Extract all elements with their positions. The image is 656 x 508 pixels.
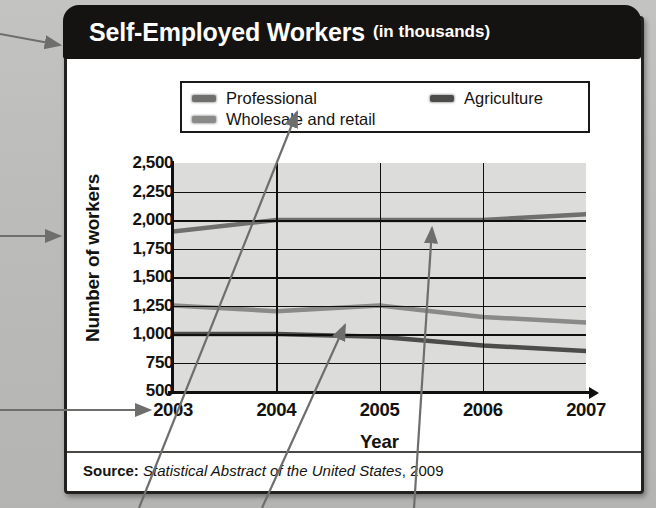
legend-column-right: Agriculture [430,88,543,109]
plot-area [173,163,586,391]
y-axis-line [171,161,174,394]
page-title: Self-Employed Workers [89,18,365,47]
source-work: Statistical Abstract of the United State… [143,462,402,479]
legend-item-wholesale: Wholesale and retail [192,109,376,130]
y-axis-label: Number of workers [82,158,104,358]
y-axis-tick: 1,500 [132,267,173,287]
legend-item-agriculture: Agriculture [430,88,543,109]
x-axis-tick: 2004 [256,399,296,421]
legend-label-professional: Professional [226,89,317,108]
x-axis-line [168,391,590,394]
vertical-gridline [276,163,278,391]
x-axis-label: Year [173,431,586,453]
vertical-gridline [483,163,485,391]
x-axis-tick: 2007 [566,399,606,421]
y-axis-tick: 2,500 [132,153,173,173]
vertical-gridline [380,163,382,391]
legend-label-wholesale: Wholesale and retail [226,110,376,129]
legend-swatch-professional [192,95,216,102]
legend-label-agriculture: Agriculture [464,89,543,108]
chart-title-banner: Self-Employed Workers (in thousands) [63,5,641,59]
legend-swatch-agriculture [430,95,454,102]
x-axis-tick: 2005 [360,399,400,421]
source-label: Source: [83,462,139,479]
y-axis-tick: 750 [146,353,173,373]
source-year: , 2009 [402,462,444,479]
chart-legend: Professional Wholesale and retail Agricu… [180,81,590,133]
source-note: Source: Statistical Abstract of the Unit… [83,462,444,479]
y-axis-tick: 1,000 [132,324,173,344]
y-axis-ticks: 2,5002,2502,0001,7501,5001,2501,00075050… [105,137,173,377]
y-axis-tick: 2,000 [132,210,173,230]
source-divider [67,451,641,453]
legend-column-left: Professional Wholesale and retail [192,88,376,130]
legend-swatch-wholesale [192,116,216,123]
x-axis-tick: 2003 [153,399,193,421]
title-units: (in thousands) [373,22,490,42]
legend-item-professional: Professional [192,88,376,109]
chart-area: Number of workers 2,5002,2502,0001,7501,… [67,137,641,437]
y-axis-tick: 1,750 [132,239,173,259]
figure-card: Self-Employed Workers (in thousands) Pro… [64,16,644,494]
x-axis-tick: 2006 [463,399,503,421]
y-axis-tick: 2,250 [132,182,173,202]
y-axis-tick: 1,250 [132,296,173,316]
